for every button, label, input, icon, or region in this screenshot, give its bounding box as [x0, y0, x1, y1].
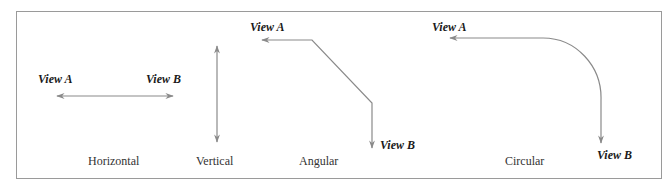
angular-view-a-label: View A — [250, 20, 285, 35]
horizontal-view-b-label: View B — [146, 72, 181, 87]
circular-view-b-label: View B — [597, 148, 632, 163]
circular-arrow — [450, 38, 601, 143]
circular-view-a-label: View A — [432, 20, 467, 35]
angular-arrow — [262, 40, 372, 148]
vertical-caption: Vertical — [196, 154, 233, 169]
circular-caption: Circular — [505, 154, 544, 169]
horizontal-caption: Horizontal — [88, 154, 139, 169]
horizontal-view-a-label: View A — [38, 72, 73, 87]
angular-view-b-label: View B — [380, 138, 415, 153]
angular-caption: Angular — [299, 154, 338, 169]
